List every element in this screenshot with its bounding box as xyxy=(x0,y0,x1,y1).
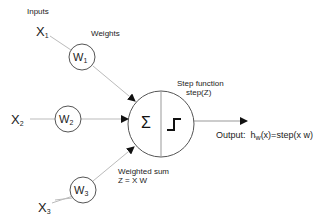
edge-x1-w1 xyxy=(50,36,71,50)
input-x2: X2 xyxy=(11,113,24,127)
weight-w2: W2 xyxy=(59,114,73,126)
input-x1: X1 xyxy=(36,25,49,39)
edge-w1-sum xyxy=(93,66,135,101)
perceptron-diagram xyxy=(0,0,334,224)
weights-label: Weights xyxy=(91,30,120,38)
weighted-sum-label: Weighted sum xyxy=(118,168,169,176)
step-function-label: Step function xyxy=(177,80,224,88)
inputs-label: Inputs xyxy=(27,8,49,16)
weight-w1: W1 xyxy=(73,52,87,64)
step-z-label: step(Z) xyxy=(186,89,211,97)
sigma-icon: Σ xyxy=(141,115,151,131)
input-x3: X3 xyxy=(38,201,51,215)
weight-w3: W3 xyxy=(74,185,88,197)
weighted-sum-formula: Z = X W xyxy=(118,177,147,185)
output-label: Output: hw(x)=step(x w) xyxy=(216,131,313,141)
